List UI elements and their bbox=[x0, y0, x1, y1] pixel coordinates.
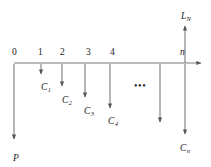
tick-label-3: 3 bbox=[86, 48, 91, 58]
salvage-base-l: L bbox=[181, 11, 186, 21]
tick-label-2: 2 bbox=[60, 48, 65, 58]
cash-flow-sub-c2: 2 bbox=[69, 99, 72, 106]
tick-label-4: 4 bbox=[110, 48, 115, 58]
diagram-canvas bbox=[0, 0, 211, 167]
cash-flow-sub-c3: 3 bbox=[91, 110, 94, 117]
cash-flow-sub-cn: n bbox=[187, 147, 190, 154]
cash-flow-label-cn: Cn bbox=[180, 144, 190, 154]
salvage-label-ln: LN bbox=[181, 12, 191, 22]
cash-flow-label-c1: C1 bbox=[41, 83, 51, 93]
down-arrow-group bbox=[14, 64, 185, 139]
cash-flow-base-c4: C bbox=[108, 116, 114, 126]
tick-label-0: 0 bbox=[12, 48, 17, 58]
tick-label-n: n bbox=[180, 48, 185, 58]
cash-flow-base-cn: C bbox=[180, 143, 186, 153]
cash-flow-base-c3: C bbox=[84, 106, 90, 116]
cash-flow-label-c4: C4 bbox=[108, 117, 118, 127]
ellipsis-marker: ••• bbox=[134, 80, 146, 91]
salvage-sub-n: N bbox=[187, 15, 191, 22]
cash-flow-label-c3: C3 bbox=[84, 107, 94, 117]
cash-flow-diagram: 0 1 2 3 4 n C1 C2 C3 C4 Cn P LN ••• bbox=[0, 0, 211, 167]
tick-label-1: 1 bbox=[38, 48, 43, 58]
cash-flow-sub-c4: 4 bbox=[115, 120, 118, 127]
cash-flow-base-c1: C bbox=[41, 82, 47, 92]
cash-flow-sub-c1: 1 bbox=[48, 86, 51, 93]
principal-label-p: P bbox=[13, 154, 19, 164]
cash-flow-base-c2: C bbox=[62, 95, 68, 105]
cash-flow-label-c2: C2 bbox=[62, 96, 72, 106]
